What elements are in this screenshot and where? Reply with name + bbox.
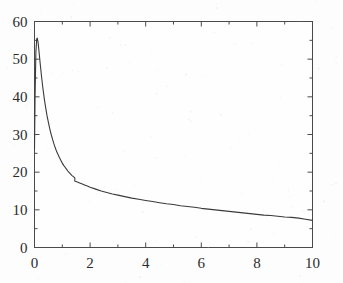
x-tick-label: 10 xyxy=(305,256,320,271)
x-tick-label: 6 xyxy=(198,256,206,271)
chart-figure: 0102030405060 0246810 xyxy=(0,0,343,283)
y-tick-label: 10 xyxy=(0,202,28,217)
plot-frame xyxy=(35,22,313,248)
x-tick-label: 0 xyxy=(31,256,39,271)
line-chart-plot xyxy=(0,0,343,283)
y-tick-label: 30 xyxy=(0,127,28,142)
y-tick-label: 0 xyxy=(0,240,28,255)
y-tick-label: 50 xyxy=(0,52,28,67)
y-tick-label: 40 xyxy=(0,89,28,104)
y-tick-label: 20 xyxy=(0,165,28,180)
y-tick-label: 60 xyxy=(0,14,28,29)
x-tick-label: 2 xyxy=(86,256,94,271)
x-tick-label: 4 xyxy=(142,256,150,271)
x-tick-label: 8 xyxy=(253,256,261,271)
